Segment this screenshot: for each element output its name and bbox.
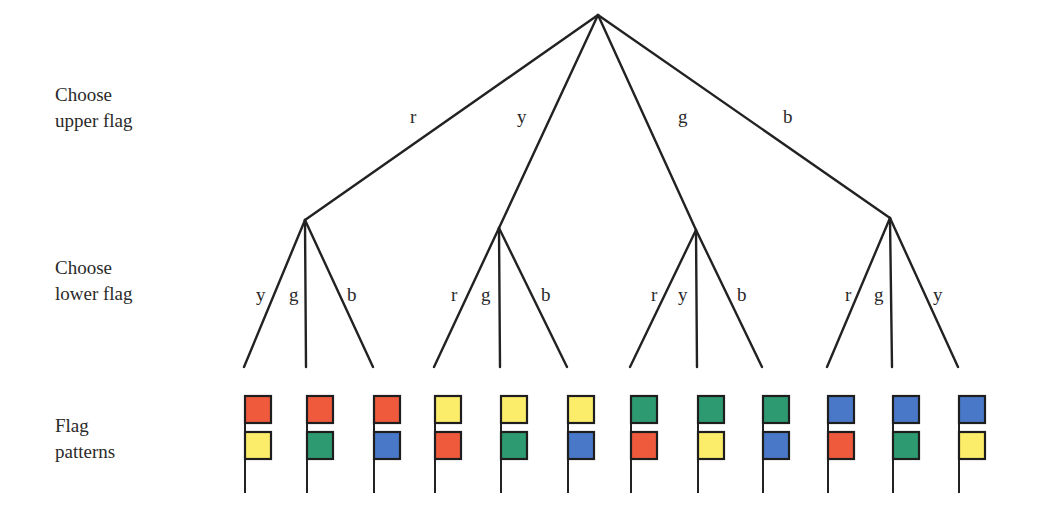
lower-flag-b: [568, 432, 594, 459]
lower-edge-g-b: [696, 230, 762, 367]
flag-pattern-by: [959, 395, 985, 493]
flag-pattern-rg: [307, 395, 333, 493]
lower-edge-y-g: [499, 228, 500, 367]
lower-flag-g: [893, 432, 919, 459]
row-label-lower-line2: lower flag: [55, 283, 133, 304]
lower-edge-label: g: [874, 284, 884, 305]
lower-flag-b: [763, 432, 789, 459]
upper-flag-b: [893, 396, 919, 423]
flag-pattern-gy: [698, 395, 724, 493]
row-label-patterns-line1: Flag: [55, 415, 89, 436]
lower-edge-label: g: [481, 284, 491, 305]
upper-flag-r: [374, 396, 400, 423]
tree-edges: [244, 15, 958, 367]
row-labels: Choose upper flag Choose lower flag Flag…: [55, 84, 133, 462]
lower-flag-g: [307, 432, 333, 459]
upper-edge-b: [598, 15, 890, 218]
lower-edge-label: y: [933, 284, 943, 305]
upper-flag-y: [435, 396, 461, 423]
row-label-upper-line1: Choose: [55, 84, 112, 105]
lower-flag-y: [959, 432, 985, 459]
lower-edge-label: r: [845, 284, 852, 305]
upper-flag-r: [245, 396, 271, 423]
tree-edge-labels: rygbyrgbgrybbrgy: [256, 106, 943, 305]
lower-flag-g: [501, 432, 527, 459]
upper-flag-y: [501, 396, 527, 423]
upper-flag-g: [763, 396, 789, 423]
row-label-lower-line1: Choose: [55, 257, 112, 278]
row-label-upper-line2: upper flag: [55, 110, 133, 131]
flag-pattern-rb: [374, 395, 400, 493]
lower-edge-b-y: [890, 218, 958, 367]
flag-pattern-ry: [245, 395, 271, 493]
lower-flag-r: [828, 432, 854, 459]
lower-edge-r-b: [305, 220, 373, 367]
lower-edge-b-g: [890, 218, 892, 367]
upper-edge-label: y: [517, 106, 527, 127]
lower-edge-label: r: [651, 284, 658, 305]
lower-flag-y: [245, 432, 271, 459]
upper-flag-g: [631, 396, 657, 423]
lower-edge-label: y: [678, 284, 688, 305]
flag-pattern-yr: [435, 395, 461, 493]
upper-edge-label: r: [410, 106, 417, 127]
flag-pattern-br: [828, 395, 854, 493]
flag-pattern-yg: [501, 395, 527, 493]
flag-pattern-gb: [763, 395, 789, 493]
lower-edge-r-g: [305, 220, 306, 367]
lower-edge-label: b: [347, 284, 357, 305]
lower-edge-label: g: [289, 284, 299, 305]
lower-flag-b: [374, 432, 400, 459]
flag-pattern-bg: [893, 395, 919, 493]
lower-edge-label: b: [541, 284, 551, 305]
lower-edge-label: b: [737, 284, 747, 305]
row-label-patterns-line2: patterns: [55, 441, 115, 462]
lower-edge-label: y: [256, 284, 266, 305]
upper-edge-r: [305, 15, 598, 220]
upper-edge-label: g: [678, 106, 688, 127]
lower-flag-y: [698, 432, 724, 459]
upper-flag-b: [959, 396, 985, 423]
upper-flag-y: [568, 396, 594, 423]
flag-patterns: [245, 395, 985, 493]
upper-edge-y: [499, 15, 598, 228]
lower-edge-g-y: [696, 230, 697, 367]
lower-flag-r: [435, 432, 461, 459]
flag-pattern-gr: [631, 395, 657, 493]
upper-flag-b: [828, 396, 854, 423]
upper-flag-r: [307, 396, 333, 423]
lower-edge-y-b: [499, 228, 567, 367]
lower-edge-label: r: [451, 284, 458, 305]
flag-pattern-yb: [568, 395, 594, 493]
flag-tree-diagram: Choose upper flag Choose lower flag Flag…: [0, 0, 1038, 515]
lower-flag-r: [631, 432, 657, 459]
upper-flag-g: [698, 396, 724, 423]
upper-edge-label: b: [783, 106, 793, 127]
